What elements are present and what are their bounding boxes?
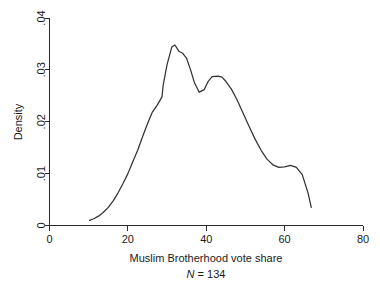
y-tick-label: .03 <box>35 62 47 77</box>
y-tick-label: .02 <box>35 114 47 129</box>
x-tick-label: 60 <box>279 233 291 245</box>
x-tick-label: 0 <box>46 233 52 245</box>
x-tick-label: 40 <box>200 233 212 245</box>
sample-size-symbol: N <box>187 268 195 280</box>
y-axis-title: Density <box>12 103 24 140</box>
density-plot-figure: 0.01.02.03.04 020406080 Density Muslim B… <box>0 0 380 286</box>
sample-size-annotation: N= 134 <box>187 268 226 280</box>
y-tick-label: 0 <box>35 222 47 228</box>
x-tick-label: 20 <box>122 233 134 245</box>
y-tick-label: .01 <box>35 166 47 181</box>
x-axis-ticks: 020406080 <box>46 226 369 245</box>
x-axis-title: Muslim Brotherhood vote share <box>130 252 283 264</box>
y-axis-ticks: 0.01.02.03.04 <box>35 10 50 228</box>
chart-canvas: 0.01.02.03.04 020406080 Density Muslim B… <box>0 0 380 286</box>
density-curve <box>89 45 311 220</box>
x-tick-label: 80 <box>357 233 369 245</box>
y-tick-label: .04 <box>35 10 47 25</box>
sample-size-value: = 134 <box>198 268 226 280</box>
